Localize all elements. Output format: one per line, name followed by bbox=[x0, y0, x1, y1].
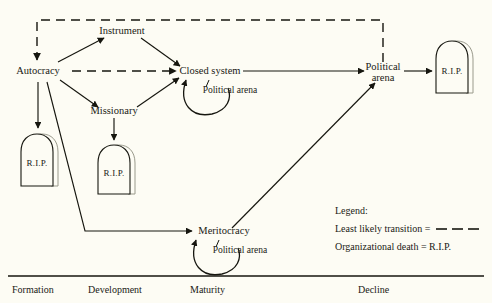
tombstone-label: R.I.P. bbox=[442, 66, 463, 76]
legend-organizational-death-label: Organizational death = R.I.P. bbox=[335, 241, 451, 252]
tombstone-political-arena-death: R.I.P. bbox=[436, 41, 473, 93]
node-meritocracy[interactable]: Meritocracy bbox=[198, 225, 250, 236]
tombstone-autocracy-death: R.I.P. bbox=[21, 134, 58, 186]
edge-missionary-to-closed-system bbox=[137, 78, 179, 107]
node-political-arena-line1[interactable]: Political bbox=[366, 61, 401, 72]
node-missionary[interactable]: Missionary bbox=[90, 105, 138, 116]
node-instrument[interactable]: Instrument bbox=[99, 25, 145, 36]
node-autocracy[interactable]: Autocracy bbox=[16, 65, 60, 76]
tombstone-label: R.I.P. bbox=[27, 158, 48, 168]
edge-political-arena-to-autocracy-dashed bbox=[37, 20, 383, 62]
phase-label-maturity: Maturity bbox=[190, 284, 225, 295]
legend: Legend: Least likely transition = Organi… bbox=[335, 205, 479, 252]
legend-least-likely-label: Least likely transition = bbox=[335, 223, 431, 234]
loop-label-closed-system: Political arena bbox=[203, 85, 258, 95]
phase-label-development: Development bbox=[88, 284, 142, 295]
node-closed-system[interactable]: Closed system bbox=[180, 65, 241, 76]
tombstone-missionary-death: R.I.P. bbox=[98, 145, 135, 194]
phase-label-formation: Formation bbox=[12, 284, 54, 295]
legend-heading: Legend: bbox=[335, 205, 368, 216]
phase-label-decline: Decline bbox=[358, 284, 390, 295]
node-political-arena-line2[interactable]: arena bbox=[372, 72, 395, 83]
edge-autocracy-to-missionary bbox=[60, 80, 98, 107]
diagram-canvas: Autocracy Instrument Missionary Closed s… bbox=[0, 0, 492, 303]
loop-label-meritocracy: Political arena bbox=[213, 245, 268, 255]
edge-autocracy-to-instrument bbox=[58, 38, 104, 62]
edge-instrument-to-closed-system bbox=[141, 38, 180, 66]
diagram-svg: Autocracy Instrument Missionary Closed s… bbox=[0, 0, 492, 303]
tombstone-label: R.I.P. bbox=[104, 168, 125, 178]
